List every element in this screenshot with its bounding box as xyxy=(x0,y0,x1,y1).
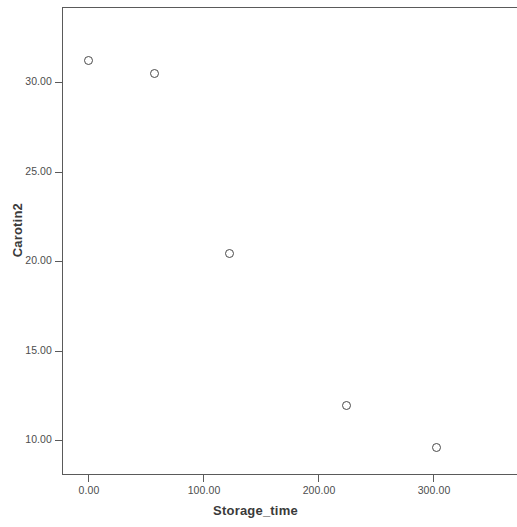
x-axis-tick-label: 300.00 xyxy=(418,484,451,496)
y-axis-tick: 20.00 xyxy=(55,261,62,262)
y-axis-tick: 25.00 xyxy=(55,172,62,173)
y-axis-tick: 15.00 xyxy=(55,351,62,352)
y-axis-tick: 10.00 xyxy=(55,440,62,441)
y-axis-tick: 30.00 xyxy=(55,82,62,83)
x-axis-tick-label: 200.00 xyxy=(303,484,336,496)
data-point-marker xyxy=(225,249,234,258)
x-axis-title: Storage_time xyxy=(0,503,511,518)
data-point-marker xyxy=(84,56,93,65)
plot-area xyxy=(62,7,511,475)
data-point-marker xyxy=(342,401,351,410)
x-axis-tick: 0.00 xyxy=(88,475,89,482)
y-axis-tick-label: 25.00 xyxy=(25,165,52,177)
y-axis-tick-label: 20.00 xyxy=(25,254,52,266)
x-axis-tick: 100.00 xyxy=(203,475,204,482)
data-point-marker xyxy=(432,443,441,452)
x-axis-tick-label: 100.00 xyxy=(188,484,221,496)
y-axis-tick-label: 10.00 xyxy=(25,433,52,445)
y-axis-tick-label: 15.00 xyxy=(25,344,52,356)
x-axis-tick: 200.00 xyxy=(318,475,319,482)
x-axis-tick-label: 0.00 xyxy=(79,484,100,496)
x-axis-tick: 300.00 xyxy=(433,475,434,482)
y-axis-title: Carotin2 xyxy=(10,203,25,257)
y-axis-tick-label: 30.00 xyxy=(25,75,52,87)
data-point-marker xyxy=(150,69,159,78)
